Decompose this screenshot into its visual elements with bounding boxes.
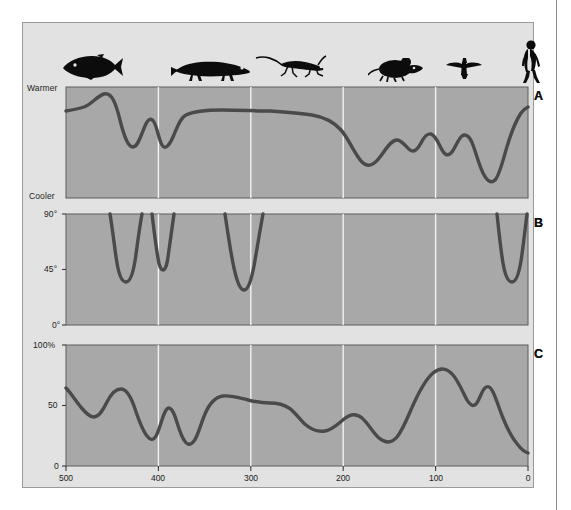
panel-c-ylabel-0: 0 xyxy=(54,461,59,471)
xaxis-tick-400: 400 xyxy=(146,473,170,483)
panel-c-ylabel-50: 50 xyxy=(48,400,58,410)
bird-icon xyxy=(446,56,482,80)
xaxis-tick-0: 0 xyxy=(518,473,538,483)
panel-c-ylabel-100: 100% xyxy=(33,340,55,350)
figure-root: A B C Warmer Coo xyxy=(0,0,571,510)
panel-b-letter: B xyxy=(534,216,543,230)
xaxis-tick-500: 500 xyxy=(54,473,78,483)
panel-a-ylabel-warmer: Warmer xyxy=(27,83,58,93)
figure-frame xyxy=(22,22,534,488)
xaxis-tick-100: 100 xyxy=(424,473,448,483)
panel-b-ylabel-45: 45° xyxy=(44,264,57,274)
panel-b-ylabel-90: 90° xyxy=(44,209,57,219)
xaxis-tick-200: 200 xyxy=(331,473,355,483)
lizard-icon xyxy=(255,53,327,83)
amphibian-icon xyxy=(171,58,251,82)
column-rule-divider xyxy=(556,0,557,510)
panel-a-ylabel-cooler: Cooler xyxy=(29,191,55,201)
panel-b-ylabel-0: 0° xyxy=(52,320,60,330)
mammal-icon xyxy=(368,58,428,82)
fish-icon xyxy=(61,54,125,80)
panel-c-letter: C xyxy=(534,347,543,361)
human-icon xyxy=(518,40,544,84)
organism-silhouette-band xyxy=(23,40,533,84)
xaxis-tick-300: 300 xyxy=(239,473,263,483)
panel-a-letter: A xyxy=(534,89,543,103)
